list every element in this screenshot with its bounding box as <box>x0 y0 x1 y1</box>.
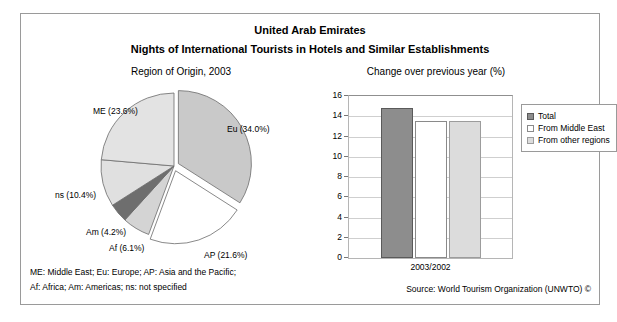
pie-chart-title: Region of Origin, 2003 <box>61 66 301 77</box>
legend-item-total: Total <box>527 111 611 121</box>
figure-title-subject: Nights of International Tourists in Hote… <box>21 43 599 55</box>
x-axis-label: 2003/2002 <box>348 262 513 272</box>
pie-label-me: ME (23.6%) <box>93 106 138 116</box>
y-axis-tick-label: 4 <box>316 213 342 222</box>
bar-total <box>381 108 413 258</box>
bar-other <box>449 121 481 258</box>
pie-label-eu: Eu (34.0%) <box>227 124 270 134</box>
y-axis-tick-mark <box>344 95 348 96</box>
y-axis-tick-mark <box>344 156 348 157</box>
legend-item-other-regions: From other regions <box>527 135 611 145</box>
y-axis-tick-label: 12 <box>316 132 342 141</box>
y-axis-tick-label: 6 <box>316 192 342 201</box>
bar-chart-title: Change over previous year (%) <box>321 66 551 77</box>
y-axis-tick-mark <box>344 196 348 197</box>
y-axis-tick-mark <box>344 136 348 137</box>
y-axis-tick-mark <box>344 257 348 258</box>
chart-figure: United Arab Emirates Nights of Internati… <box>20 13 600 305</box>
y-axis-tick-label: 10 <box>316 152 342 161</box>
gridline <box>349 116 512 117</box>
pie-chart-panel: ME (23.6%) Eu (34.0%) ns (10.4%) Am (4.2… <box>31 80 321 260</box>
legend-label-total: Total <box>538 111 556 121</box>
bar-chart-panel: 0246810121416 2003/2002 Total From Middl… <box>316 80 596 280</box>
legend-item-middle-east: From Middle East <box>527 123 611 133</box>
y-axis-tick-mark <box>344 176 348 177</box>
legend-swatch-total <box>527 113 534 120</box>
footnote-line-1: ME: Middle East; Eu: Europe; AP: Asia an… <box>30 267 236 277</box>
y-axis-tick-mark <box>344 237 348 238</box>
legend-label-middle-east: From Middle East <box>538 123 605 133</box>
legend-label-other-regions: From other regions <box>538 135 610 145</box>
pie-label-af: Af (6.1%) <box>109 243 144 253</box>
pie-label-ns: ns (10.4%) <box>55 190 96 200</box>
y-axis-tick-label: 0 <box>316 253 342 262</box>
y-axis-tick-label: 8 <box>316 172 342 181</box>
legend-swatch-other-regions <box>527 137 534 144</box>
pie-slice-me <box>101 93 174 166</box>
pie-label-ap: AP (21.6%) <box>204 250 247 260</box>
legend-swatch-middle-east <box>527 125 534 132</box>
pie-chart-svg <box>31 80 321 260</box>
footnote-line-2: Af: Africa; Am: Americas; ns: not specif… <box>30 282 187 292</box>
figure-title-country: United Arab Emirates <box>21 24 599 36</box>
y-axis-tick-mark <box>344 115 348 116</box>
y-axis-tick-mark <box>344 217 348 218</box>
bar-chart-legend: Total From Middle East From other region… <box>521 104 617 152</box>
pie-label-am: Am (4.2%) <box>86 227 126 237</box>
y-axis-tick-label: 16 <box>316 91 342 100</box>
y-axis-tick-label: 14 <box>316 111 342 120</box>
bar-mideast <box>415 121 447 258</box>
y-axis-tick-label: 2 <box>316 233 342 242</box>
bar-plot-area <box>348 95 513 259</box>
source-note: Source: World Tourism Organization (UNWT… <box>406 284 591 294</box>
